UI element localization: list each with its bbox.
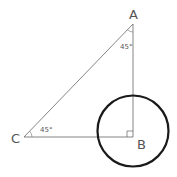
angle-arc-c bbox=[30, 131, 32, 137]
triangle-diagram: A B C 45° 45° bbox=[0, 0, 177, 177]
angle-label-c: 45° bbox=[40, 126, 52, 134]
vertex-label-b: B bbox=[137, 137, 146, 152]
vertex-label-c: C bbox=[11, 131, 20, 146]
angle-label-a: 45° bbox=[120, 43, 132, 51]
side-ca bbox=[24, 24, 133, 137]
right-angle-marker bbox=[127, 131, 133, 137]
vertex-label-a: A bbox=[129, 7, 138, 22]
angle-arc-a bbox=[127, 30, 133, 32]
